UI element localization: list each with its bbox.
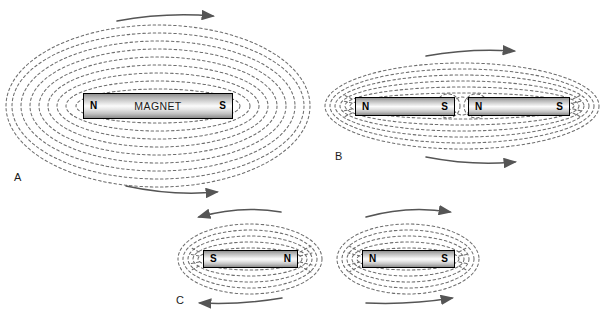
magnet-name-label: MAGNET [84, 100, 232, 112]
panel-label-a: A [14, 171, 22, 183]
arrow-a-top [117, 15, 213, 21]
figure-canvas: N MAGNET S N S N S S N N S A B C [0, 0, 611, 319]
arrow-b-top [426, 50, 514, 56]
pole-label-south: S [441, 254, 448, 264]
magnet-bar-b-right: N S [468, 97, 570, 116]
magnet-bar-c-right: N S [362, 250, 455, 268]
panel-label-b: B [335, 150, 343, 162]
pole-label-south: S [556, 102, 563, 112]
magnet-bar-c-left: S N [203, 250, 298, 268]
magnet-bar-b-left: N S [355, 97, 455, 116]
pole-label-north: N [369, 254, 376, 264]
direction-arrows-layer [0, 0, 611, 319]
arrow-b-bottom [426, 157, 515, 163]
pole-label-north: N [284, 254, 291, 264]
arrow-c-bottom-left [200, 298, 282, 303]
pole-label-north: N [475, 102, 482, 112]
pole-label-north: N [362, 102, 369, 112]
magnet-bar-a: N MAGNET S [83, 93, 233, 119]
panel-label-c: C [176, 294, 184, 306]
arrow-c-top-right [366, 209, 450, 217]
arrow-c-top-left [199, 209, 281, 217]
arrow-a-bottom [126, 186, 217, 193]
pole-label-south: S [210, 254, 217, 264]
arrow-c-bottom-right [366, 298, 452, 303]
pole-label-south: S [441, 102, 448, 112]
